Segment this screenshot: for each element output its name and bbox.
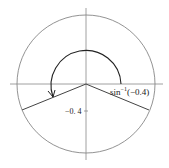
angle-label: sin−1(−0.4)	[110, 86, 149, 97]
y-value-label: −0. 4	[65, 107, 82, 116]
unit-circle-diagram: sin−1(−0.4) −0. 4	[0, 0, 169, 168]
